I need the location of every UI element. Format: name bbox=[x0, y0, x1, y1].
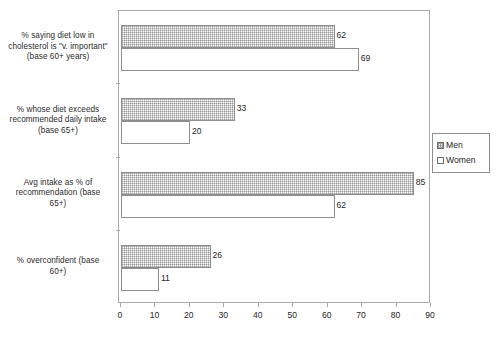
y-tick-3 bbox=[116, 230, 120, 231]
value-label-women-0: 69 bbox=[361, 54, 371, 63]
x-tick-mark-40 bbox=[258, 303, 259, 307]
x-tick-label-80: 80 bbox=[384, 311, 408, 320]
value-label-men-1: 33 bbox=[237, 104, 247, 113]
value-label-women-1: 20 bbox=[192, 127, 202, 136]
category-label-3: % overconfident (base60+) bbox=[2, 256, 114, 277]
bar-women-0 bbox=[121, 48, 359, 71]
bar-men-1 bbox=[121, 98, 235, 121]
y-tick-1 bbox=[116, 83, 120, 84]
value-label-men-2: 85 bbox=[416, 178, 426, 187]
x-tick-label-20: 20 bbox=[177, 311, 201, 320]
value-label-women-3: 11 bbox=[161, 274, 170, 283]
bar-men-2 bbox=[121, 172, 414, 195]
x-tick-mark-70 bbox=[361, 303, 362, 307]
x-tick-mark-60 bbox=[327, 303, 328, 307]
category-label-line: % whose diet exceeds bbox=[2, 105, 114, 116]
legend-swatch-men-icon bbox=[437, 142, 444, 149]
legend-label-men: Men bbox=[446, 141, 463, 150]
y-tick-2 bbox=[116, 157, 120, 158]
category-label-line: recommended daily intake bbox=[2, 115, 114, 126]
bar-men-3 bbox=[121, 245, 211, 268]
x-tick-mark-50 bbox=[292, 303, 293, 307]
category-label-line: % saying diet low in bbox=[2, 31, 114, 42]
legend-item-men[interactable]: Men bbox=[437, 138, 489, 153]
x-tick-label-90: 90 bbox=[418, 311, 442, 320]
x-tick-mark-20 bbox=[189, 303, 190, 307]
x-tick-label-0: 0 bbox=[108, 311, 132, 320]
x-tick-label-50: 50 bbox=[280, 311, 304, 320]
x-tick-label-30: 30 bbox=[211, 311, 235, 320]
chart-legend: Men Women bbox=[432, 133, 490, 173]
bar-women-2 bbox=[121, 195, 335, 218]
legend-swatch-women-icon bbox=[437, 157, 444, 164]
x-tick-mark-30 bbox=[223, 303, 224, 307]
category-label-0: % saying diet low incholesterol is "v. i… bbox=[2, 31, 114, 63]
x-tick-mark-10 bbox=[154, 303, 155, 307]
plot-area bbox=[118, 10, 430, 303]
x-tick-mark-80 bbox=[396, 303, 397, 307]
value-label-men-3: 26 bbox=[213, 251, 223, 260]
category-label-2: Avg intake as % ofrecommendation (base65… bbox=[2, 178, 114, 210]
bar-men-0 bbox=[121, 25, 335, 48]
x-tick-label-70: 70 bbox=[349, 311, 373, 320]
value-label-men-0: 62 bbox=[337, 31, 347, 40]
legend-item-women[interactable]: Women bbox=[437, 153, 489, 168]
category-label-1: % whose diet exceedsrecommended daily in… bbox=[2, 105, 114, 137]
bar-women-1 bbox=[121, 121, 190, 144]
category-label-line: recommendation (base bbox=[2, 188, 114, 199]
bar-chart: % saying diet low incholesterol is "v. i… bbox=[0, 0, 498, 339]
x-tick-label-40: 40 bbox=[246, 311, 270, 320]
category-label-line: 65+) bbox=[2, 199, 114, 210]
x-tick-mark-90 bbox=[430, 303, 431, 307]
value-label-women-2: 62 bbox=[337, 201, 347, 210]
category-label-line: (base 65+) bbox=[2, 126, 114, 137]
legend-label-women: Women bbox=[446, 156, 475, 165]
x-tick-mark-0 bbox=[120, 303, 121, 307]
x-tick-label-10: 10 bbox=[142, 311, 166, 320]
bar-women-3 bbox=[121, 268, 159, 291]
category-label-line: Avg intake as % of bbox=[2, 178, 114, 189]
category-label-line: cholesterol is "v. important" bbox=[2, 42, 114, 53]
category-label-line: % overconfident (base bbox=[2, 256, 114, 267]
category-label-line: 60+) bbox=[2, 267, 114, 278]
x-tick-label-60: 60 bbox=[315, 311, 339, 320]
category-label-line: (base 60+ years) bbox=[2, 52, 114, 63]
